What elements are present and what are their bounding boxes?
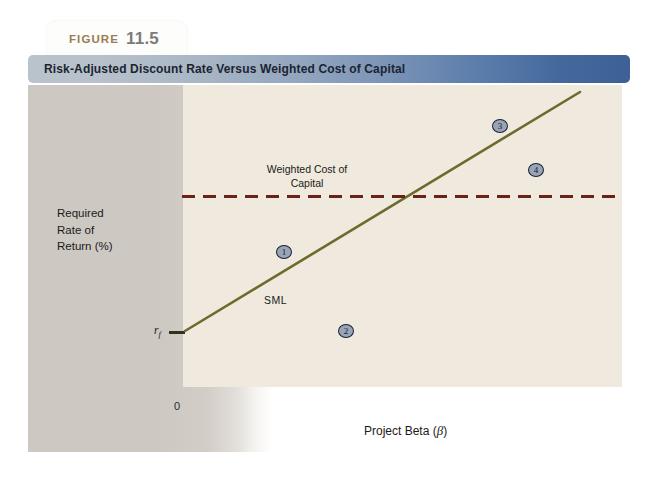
risk-free-rate-tick — [169, 331, 185, 334]
x-axis-label: Project Beta (β) — [364, 423, 447, 439]
figure-title: Risk-Adjusted Discount Rate Versus Weigh… — [44, 62, 405, 76]
risk-free-rate-subscript: f — [158, 329, 160, 339]
figure-number: 11.5 — [126, 29, 159, 49]
marker-project-3: 3 — [492, 119, 508, 133]
marker-label: 3 — [498, 122, 503, 131]
marker-label: 1 — [282, 248, 287, 257]
marker-project-4: 4 — [528, 163, 544, 177]
plot-area — [183, 85, 622, 387]
risk-free-rate-label: rf — [154, 324, 161, 339]
origin-label: 0 — [174, 400, 180, 412]
marker-project-2: 2 — [338, 324, 354, 338]
y-axis-label-line-1: Required — [57, 205, 167, 222]
marker-label: 4 — [534, 166, 539, 175]
x-axis-label-prefix: Project Beta ( — [364, 424, 437, 438]
y-axis-label-line-2: Rate of — [57, 222, 167, 239]
y-axis-label: Required Rate of Return (%) — [57, 205, 167, 255]
y-axis-label-line-3: Return (%) — [57, 238, 167, 255]
figure-body: Required Rate of Return (%) rf 0 Weighte… — [28, 85, 622, 452]
sml-annotation: SML — [264, 294, 287, 306]
wacc-annotation: Weighted Cost of Capital — [242, 163, 372, 190]
figure-label-word: FIGURE — [69, 33, 119, 45]
figure-title-bar: Risk-Adjusted Discount Rate Versus Weigh… — [28, 55, 630, 83]
marker-label: 2 — [344, 327, 349, 336]
marker-project-1: 1 — [276, 245, 292, 259]
x-axis-label-suffix: ) — [443, 424, 447, 438]
figure-tab: FIGURE 11.5 — [47, 21, 187, 57]
figure-container: FIGURE 11.5 Risk-Adjusted Discount Rate … — [0, 0, 658, 477]
wacc-annotation-line-2: Capital — [242, 177, 372, 191]
wacc-annotation-line-1: Weighted Cost of — [242, 163, 372, 177]
